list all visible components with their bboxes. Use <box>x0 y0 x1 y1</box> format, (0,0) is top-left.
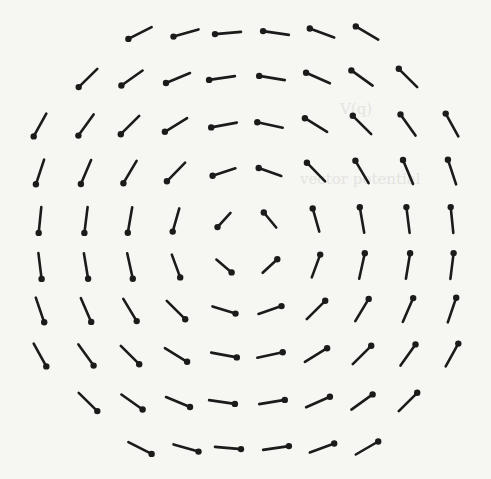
arrow-shaft <box>34 344 47 367</box>
arrow-shaft <box>306 397 330 408</box>
vector-arrow <box>254 119 283 128</box>
arrow-head-icon <box>118 131 124 137</box>
arrow-head-icon <box>286 443 292 449</box>
arrow-shaft <box>399 69 417 87</box>
arrow-shaft <box>79 393 98 411</box>
arrow-head-icon <box>148 451 154 457</box>
vector-arrow <box>167 301 189 323</box>
vector-arrow <box>353 343 375 365</box>
vector-arrow <box>263 443 292 450</box>
arrow-head-icon <box>327 394 333 400</box>
arrow-shaft <box>353 116 371 134</box>
arrow-head-icon <box>228 269 234 275</box>
arrow-head-icon <box>182 316 188 322</box>
arrow-head-icon <box>445 157 451 163</box>
vector-arrow <box>33 160 44 188</box>
arrow-head-icon <box>261 209 267 215</box>
arrow-head-icon <box>36 230 42 236</box>
arrow-head-icon <box>303 70 309 76</box>
arrow-head-icon <box>208 124 214 130</box>
vector-arrow <box>121 395 145 413</box>
vector-arrow <box>259 397 288 404</box>
arrow-shaft <box>121 116 139 134</box>
vector-arrow <box>256 165 282 176</box>
arrow-shaft <box>81 298 91 322</box>
arrow-shaft <box>356 26 378 39</box>
arrow-head-icon <box>352 158 358 164</box>
arrow-shaft <box>450 253 453 279</box>
vector-arrow <box>450 250 456 279</box>
vector-arrow <box>445 157 456 185</box>
arrow-shaft <box>399 393 417 411</box>
vector-arrow <box>163 73 190 86</box>
arrow-head-icon <box>278 303 284 309</box>
arrow-shaft <box>215 32 241 34</box>
arrow-head-icon <box>136 361 142 367</box>
arrow-head-icon <box>369 391 375 397</box>
arrow-head-icon <box>212 31 218 37</box>
arrow-shaft <box>306 73 330 84</box>
arrow-shaft <box>446 344 459 367</box>
arrow-head-icon <box>260 28 266 34</box>
arrow-shaft <box>307 301 325 319</box>
vector-arrow <box>123 299 140 324</box>
arrow-shaft <box>263 446 289 450</box>
arrow-head-icon <box>414 390 420 396</box>
arrow-head-icon <box>31 133 37 139</box>
arrow-head-icon <box>443 110 449 116</box>
arrow-shaft <box>355 161 368 183</box>
vector-arrow <box>259 303 285 314</box>
vector-arrow <box>353 23 379 39</box>
arrow-shaft <box>211 353 237 358</box>
vector-arrow <box>118 71 142 89</box>
vector-arrow <box>312 251 324 277</box>
vector-arrow <box>443 110 459 136</box>
arrow-head-icon <box>130 276 136 282</box>
arrow-shaft <box>403 160 413 184</box>
arrow-head-icon <box>324 345 330 351</box>
arrow-shaft <box>172 255 180 278</box>
arrow-shaft <box>215 447 241 449</box>
arrow-head-icon <box>163 80 169 86</box>
vector-arrow <box>31 114 47 140</box>
arrow-shaft <box>351 394 372 409</box>
arrow-head-icon <box>232 310 238 316</box>
vector-arrow <box>213 306 239 316</box>
vector-arrow <box>351 391 375 409</box>
vector-arrow <box>357 204 365 233</box>
arrow-shaft <box>166 397 190 407</box>
arrow-head-icon <box>302 115 308 121</box>
arrow-shaft <box>165 348 187 362</box>
vector-arrow <box>81 298 95 325</box>
vector-field-plot <box>0 0 491 479</box>
arrow-head-icon <box>403 204 409 210</box>
arrow-head-icon <box>162 129 168 135</box>
vector-arrow <box>209 168 235 179</box>
vector-arrow <box>76 69 98 90</box>
vector-arrow <box>263 256 281 273</box>
vector-arrow <box>212 31 241 37</box>
vector-arrow <box>348 67 372 85</box>
vector-arrow <box>256 73 285 80</box>
arrow-shaft <box>78 344 93 365</box>
vector-arrow <box>403 295 417 322</box>
arrow-head-icon <box>75 132 81 138</box>
arrow-shaft <box>401 344 416 365</box>
arrow-shaft <box>305 118 327 132</box>
arrow-shaft <box>39 207 42 233</box>
arrow-shaft <box>360 207 364 233</box>
arrow-head-icon <box>310 205 316 211</box>
arrow-head-icon <box>256 73 262 79</box>
vector-arrow <box>208 123 237 131</box>
arrow-head-icon <box>139 406 145 412</box>
arrow-head-icon <box>366 296 372 302</box>
vector-arrow <box>125 207 133 236</box>
vector-arrow <box>305 345 330 362</box>
vector-arrow <box>164 163 185 185</box>
arrow-shaft <box>401 114 416 135</box>
arrow-shaft <box>128 442 151 454</box>
arrow-shaft <box>84 253 88 279</box>
arrow-head-icon <box>125 230 131 236</box>
arrow-head-icon <box>187 404 193 410</box>
vector-arrow <box>396 66 418 88</box>
